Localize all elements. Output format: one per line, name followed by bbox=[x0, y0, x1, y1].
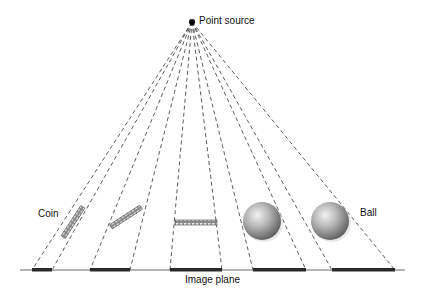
ball-1 bbox=[243, 202, 283, 242]
coin-horizontal bbox=[175, 220, 217, 225]
coin-label: Coin bbox=[38, 208, 59, 219]
shadow-3 bbox=[170, 268, 222, 272]
coin-steep bbox=[61, 206, 85, 239]
ball-2 bbox=[311, 202, 351, 242]
image-plane-label: Image plane bbox=[185, 274, 240, 285]
shadow-2 bbox=[90, 268, 130, 272]
point-source-dot bbox=[189, 19, 195, 25]
ball-label: Ball bbox=[360, 207, 377, 218]
coin-shallow bbox=[110, 205, 143, 229]
shadow-4 bbox=[253, 268, 306, 272]
shadow-5 bbox=[332, 268, 395, 272]
point-source-label: Point source bbox=[199, 15, 255, 26]
diagram-canvas bbox=[0, 0, 424, 297]
shadow-1 bbox=[32, 268, 52, 272]
